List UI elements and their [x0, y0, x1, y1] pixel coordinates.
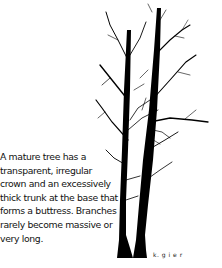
artist-signature: k. g i e r — [153, 251, 183, 258]
tree-trunks — [117, 8, 161, 258]
tree-illustration — [0, 0, 222, 268]
